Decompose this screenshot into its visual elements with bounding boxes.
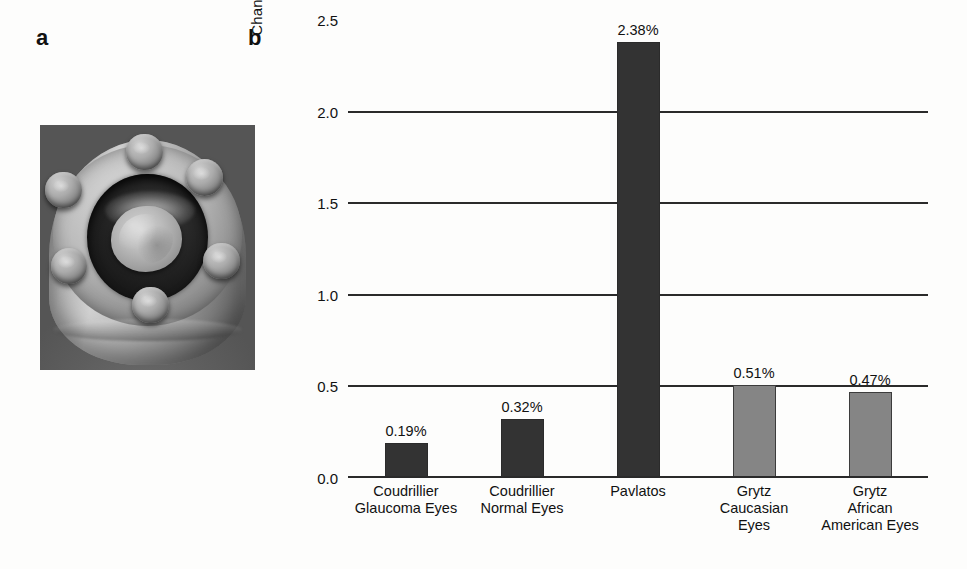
- category-label-line: American Eyes: [812, 517, 928, 534]
- bar: 0.47%: [849, 392, 892, 478]
- category-label-line: Caucasian: [696, 500, 812, 517]
- specimen-chamber-photo: [40, 125, 255, 370]
- bolt-bottom: [132, 287, 169, 324]
- category-label: CoudrillierNormal Eyes: [464, 483, 580, 517]
- bar: 0.51%: [733, 385, 776, 478]
- category-label-line: Normal Eyes: [464, 500, 580, 517]
- bolt-top: [126, 134, 163, 171]
- figure-container: a b Changes in Strain (%) between 10 and…: [0, 0, 967, 569]
- y-tick-label: 2.0: [317, 103, 338, 120]
- category-label-line: Pavlatos: [580, 483, 696, 500]
- bar: 0.19%: [385, 443, 428, 478]
- bar-value-label: 0.47%: [849, 372, 890, 388]
- category-label: GrytzAfricanAmerican Eyes: [812, 483, 928, 534]
- category-label-line: Coudrillier: [464, 483, 580, 500]
- bolt-lower-right: [203, 243, 240, 280]
- panel-a-letter: a: [36, 27, 48, 49]
- bar-value-label: 0.32%: [501, 399, 542, 415]
- bar-value-label: 2.38%: [617, 22, 658, 38]
- category-label-line: Eyes: [696, 517, 812, 534]
- bar: 2.38%: [617, 42, 660, 478]
- y-tick-label: 1.0: [317, 286, 338, 303]
- plot-area: 0.00.51.01.52.02.5 0.19%0.32%2.38%0.51%0…: [348, 20, 928, 478]
- category-label: GrytzCaucasianEyes: [696, 483, 812, 534]
- category-label-line: Grytz: [812, 483, 928, 500]
- bar-chart-panel: Changes in Strain (%) between 10 and 20 …: [262, 20, 962, 565]
- category-label-line: Glaucoma Eyes: [348, 500, 464, 517]
- bar: 0.32%: [501, 419, 544, 478]
- bar-value-label: 0.19%: [385, 423, 426, 439]
- bolt-upper-right: [186, 159, 223, 196]
- category-label-line: Coudrillier: [348, 483, 464, 500]
- y-tick-label: 2.5: [317, 12, 338, 29]
- y-tick-label: 1.5: [317, 195, 338, 212]
- y-tick-label: 0.5: [317, 378, 338, 395]
- category-label: Pavlatos: [580, 483, 696, 500]
- axis-baseline: [348, 476, 928, 478]
- bolt-upper-left: [45, 172, 82, 209]
- bar-value-label: 0.51%: [733, 365, 774, 381]
- category-label: CoudrillierGlaucoma Eyes: [348, 483, 464, 517]
- tissue-specimen: [111, 206, 182, 272]
- category-label-line: African: [812, 500, 928, 517]
- photo-background: [40, 125, 255, 370]
- category-label-line: Grytz: [696, 483, 812, 500]
- y-tick-label: 0.0: [317, 470, 338, 487]
- y-axis-title: Changes in Strain (%) between 10 and 20 …: [248, 0, 265, 80]
